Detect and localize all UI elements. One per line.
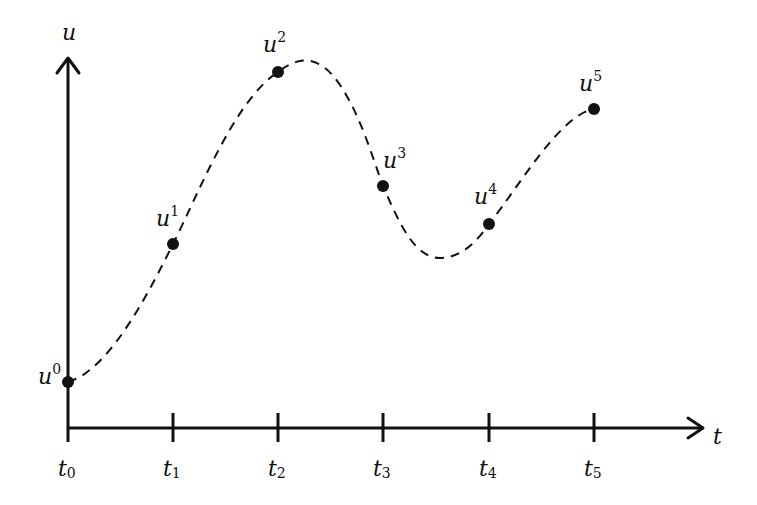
data-point-u0 — [62, 376, 74, 388]
tick-label-t2: t2 — [268, 458, 286, 480]
point-label-u4: u4 — [474, 186, 497, 208]
data-point-u3 — [377, 180, 389, 192]
tick-label-t1: t1 — [163, 458, 181, 480]
tick-label-t4: t4 — [479, 458, 497, 480]
data-point-u1 — [167, 238, 179, 250]
trajectory-diagram — [0, 0, 757, 505]
point-label-u5: u5 — [579, 73, 602, 95]
data-point-u2 — [272, 66, 284, 78]
dashed-interpolation-curve — [68, 61, 594, 382]
dashed-curve — [68, 61, 594, 382]
data-point-u5 — [588, 103, 600, 115]
y-axis-label: u — [62, 22, 76, 44]
tick-label-t0: t0 — [58, 458, 76, 480]
tick-label-t3: t3 — [373, 458, 391, 480]
x-axis-label: t — [713, 426, 722, 448]
point-label-u1: u1 — [156, 208, 179, 230]
data-points — [62, 66, 600, 388]
point-label-u3: u3 — [383, 150, 406, 172]
tick-label-t5: t5 — [584, 458, 602, 480]
data-point-u4 — [483, 218, 495, 230]
axes — [57, 58, 703, 442]
point-label-u0: u0 — [38, 366, 61, 388]
point-label-u2: u2 — [263, 34, 286, 56]
